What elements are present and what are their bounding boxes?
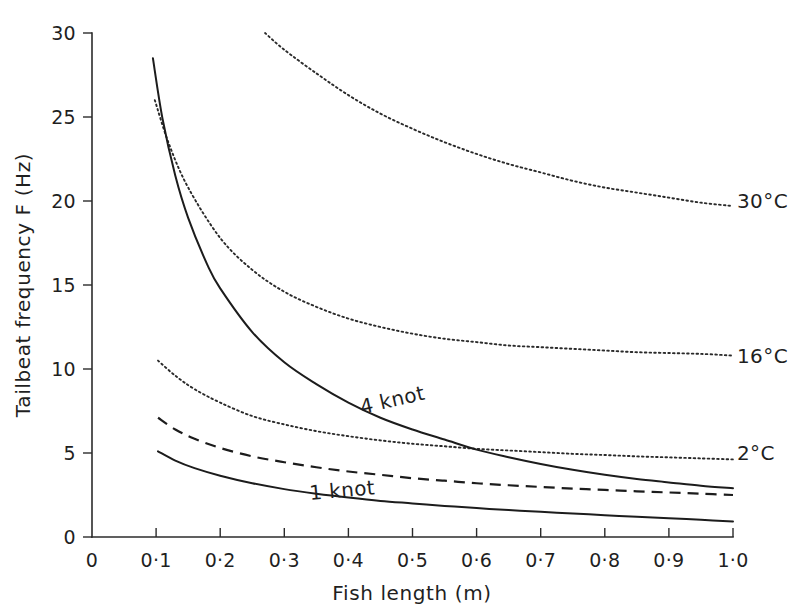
curve-2-c (158, 361, 733, 460)
x-tick-label: 0·1 (141, 549, 172, 571)
series-label-2c: 2°C (737, 441, 775, 465)
chart-curves (153, 33, 733, 522)
series-label-16c: 16°C (737, 344, 788, 368)
x-tick-label: 0·9 (653, 549, 684, 571)
y-axis-title: Tailbeat frequency F (Hz) (11, 153, 35, 418)
y-tick-label: 15 (51, 274, 76, 296)
x-tick-label: 0·4 (333, 549, 364, 571)
y-axis-tick-labels: 051015202530 (51, 22, 76, 548)
x-axis-ticks (156, 528, 733, 537)
chart-figure: 051015202530 Tailbeat frequency F (Hz) 0… (0, 0, 800, 612)
curve-4-knot (153, 58, 733, 488)
tailbeat-frequency-chart: 051015202530 Tailbeat frequency F (Hz) 0… (0, 0, 800, 612)
series-label-1knot: 1 knot (308, 475, 376, 505)
x-axis: 00·10·20·30·40·50·60·70·80·91·0 Fish len… (86, 528, 749, 605)
y-tick-label: 20 (51, 190, 76, 212)
x-axis-tick-labels: 00·10·20·30·40·50·60·70·80·91·0 (86, 549, 749, 571)
x-tick-label: 0·8 (589, 549, 620, 571)
y-axis: 051015202530 Tailbeat frequency F (Hz) (11, 22, 92, 548)
y-axis-ticks (83, 33, 92, 537)
x-tick-label: 0·6 (461, 549, 492, 571)
y-tick-label: 25 (51, 106, 76, 128)
series-label-30c: 30°C (737, 189, 788, 213)
y-tick-label: 5 (64, 442, 76, 464)
curve-30-c (265, 33, 733, 206)
x-axis-title: Fish length (m) (332, 581, 491, 605)
y-tick-label: 10 (51, 358, 76, 380)
x-tick-label: 0·7 (525, 549, 556, 571)
x-tick-label: 0 (86, 549, 98, 571)
x-tick-label: 0·3 (269, 549, 300, 571)
y-tick-label: 30 (51, 22, 76, 44)
curve-1-knot (158, 451, 733, 521)
series-label-4knot: 4 knot (358, 381, 428, 419)
x-tick-label: 0·5 (397, 549, 428, 571)
x-tick-label: 1·0 (717, 549, 748, 571)
y-tick-label: 0 (64, 526, 76, 548)
x-tick-label: 0·2 (205, 549, 236, 571)
